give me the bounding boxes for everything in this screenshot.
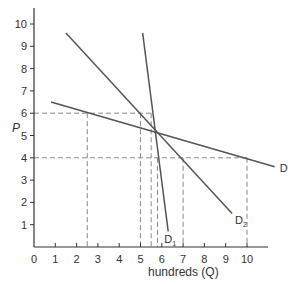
y-tick-label: 4	[21, 152, 27, 164]
y-tick-label: 2	[21, 196, 27, 208]
y-axis-title: P	[12, 121, 20, 135]
x-tick-label: 1	[52, 253, 58, 265]
x-tick-label: 10	[241, 253, 253, 265]
y-tick-label: 1	[21, 219, 27, 231]
x-tick-label: 2	[74, 253, 80, 265]
x-tick-label: 6	[159, 253, 165, 265]
x-tick-label: 4	[116, 253, 122, 265]
y-tick-label: 8	[21, 63, 27, 75]
x-tick-label: 0	[31, 253, 37, 265]
x-tick-label: 5	[137, 253, 143, 265]
x-tick-label: 3	[95, 253, 101, 265]
y-tick-label: 6	[21, 107, 27, 119]
x-tick-label: 8	[201, 253, 207, 265]
demand-curve-d2	[66, 33, 232, 214]
tick-labels: 01234567891012345678910	[15, 18, 253, 265]
y-tick-label: 7	[21, 85, 27, 97]
x-tick-label: 9	[223, 253, 229, 265]
x-axis-title: hundreds (Q)	[148, 265, 219, 279]
curve-label-d3: D3	[280, 162, 288, 176]
reference-dashed-lines	[34, 113, 247, 247]
curve-label-d2: D2	[235, 214, 247, 228]
demand-curves	[51, 33, 275, 231]
y-tick-label: 10	[15, 18, 27, 30]
demand-curve-d3	[51, 102, 275, 167]
curve-label-d1: D1	[164, 233, 176, 247]
y-tick-label: 3	[21, 174, 27, 186]
y-tick-label: 9	[21, 40, 27, 52]
x-tick-label: 7	[180, 253, 186, 265]
y-tick-label: 5	[21, 130, 27, 142]
demand-chart: 01234567891012345678910 P hundreds (Q) D…	[0, 0, 288, 284]
